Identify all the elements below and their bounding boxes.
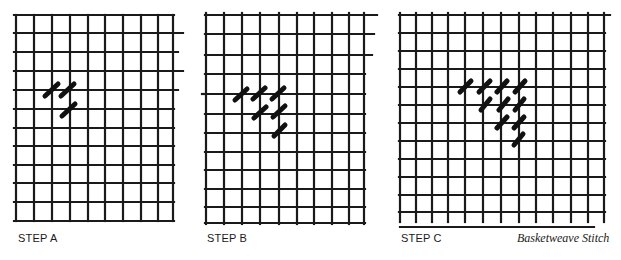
step-b-label: STEP B [207,232,247,244]
step-a-grid [14,15,183,221]
step-c-label: STEP C [401,232,442,244]
figure-caption: Basketweave Stitch [517,231,609,246]
step-c-grid [399,13,610,227]
stitch-mark [515,99,524,110]
step-a-label: STEP A [18,232,58,244]
stitch-mark [514,134,523,145]
step-b-grid [202,13,377,224]
basketweave-stitch-diagram [0,0,621,260]
